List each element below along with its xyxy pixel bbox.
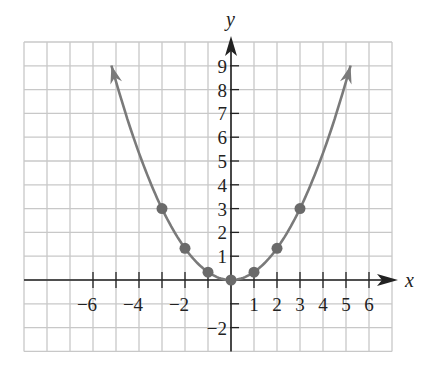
data-point: [226, 275, 237, 286]
y-tick-label: 5: [218, 151, 228, 172]
data-point: [295, 203, 306, 214]
y-tick-label: 4: [218, 175, 228, 196]
x-tick-label: 1: [249, 294, 259, 315]
y-tick-label: 2: [218, 222, 228, 243]
y-tick-label: 6: [218, 127, 228, 148]
y-tick-label: 9: [218, 56, 228, 77]
x-tick-label: −6: [77, 294, 97, 315]
data-point: [272, 243, 283, 254]
x-tick-label: 4: [318, 294, 328, 315]
y-tick-label: 7: [218, 103, 228, 124]
data-point: [249, 267, 260, 278]
y-tick-label: 1: [218, 246, 228, 267]
y-axis-label: y: [224, 8, 235, 31]
x-tick-label: 3: [295, 294, 305, 315]
data-point: [180, 243, 191, 254]
y-tick-label: −2: [207, 318, 227, 339]
x-tick-label: −4: [123, 294, 144, 315]
data-point: [157, 203, 168, 214]
x-tick-label: 6: [364, 294, 374, 315]
data-point: [203, 267, 214, 278]
x-tick-label: −2: [169, 294, 189, 315]
x-tick-label: 2: [272, 294, 282, 315]
x-tick-label: 5: [341, 294, 351, 315]
y-tick-label: 3: [218, 199, 228, 220]
y-tick-label: 8: [218, 80, 228, 101]
x-axis-label: x: [404, 269, 414, 291]
coordinate-plane: −6−4−2123456987654321−2 x y: [0, 0, 444, 382]
